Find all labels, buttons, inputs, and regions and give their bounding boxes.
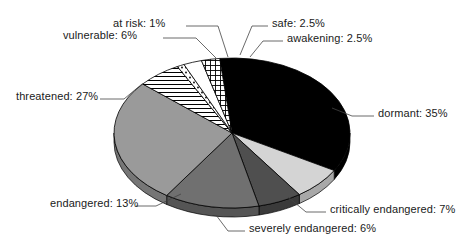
leader-line-awakening [250, 41, 283, 57]
slice-label-awakening: awakening: 2.5% [287, 32, 372, 44]
leader-line-severely-endangered [216, 215, 245, 231]
slice-label-dormant: dormant: 35% [378, 107, 448, 119]
slice-label-critically-endangered: critically endangered: 7% [330, 203, 455, 215]
slice-label-vulnerable: vulnerable: 6% [63, 29, 137, 41]
leader-line-at-risk [186, 26, 228, 57]
slice-label-endangered: endangered: 13% [50, 197, 138, 209]
pie-slices [114, 58, 350, 208]
leader-line-safe [240, 26, 268, 55]
leader-line-vulnerable [163, 38, 216, 58]
slice-label-threatened: threatened: 27% [16, 90, 98, 102]
pie-chart-figure: at risk: 1% safe: 2.5% vulnerable: 6% aw… [0, 0, 462, 251]
slice-label-safe: safe: 2.5% [272, 17, 325, 29]
slice-label-severely-endangered: severely endangered: 6% [249, 222, 376, 234]
slice-label-at-risk: at risk: 1% [113, 17, 165, 29]
